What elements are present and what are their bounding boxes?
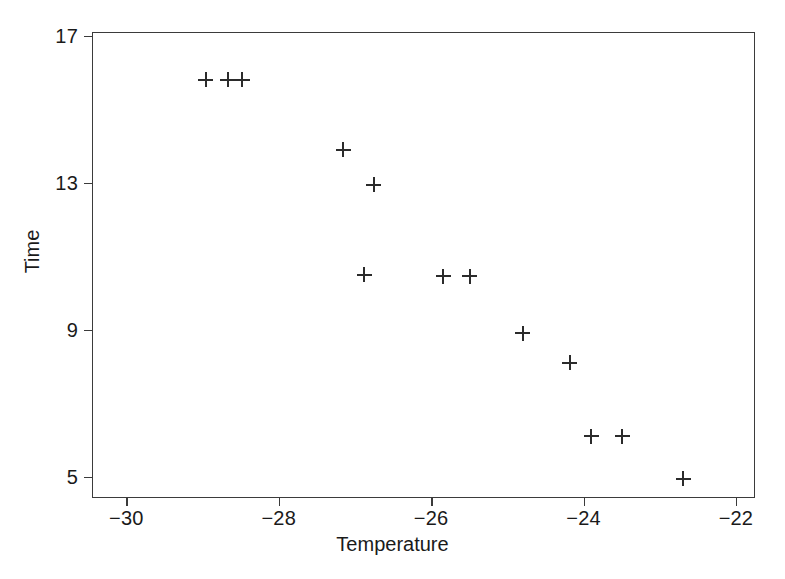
x-tick-label: −26 bbox=[414, 507, 449, 530]
x-tick-mark bbox=[736, 498, 738, 506]
plot-area-frame bbox=[92, 32, 755, 498]
y-tick-label: 13 bbox=[55, 171, 78, 194]
x-tick-label: −24 bbox=[566, 507, 601, 530]
data-point bbox=[366, 177, 381, 192]
data-point bbox=[562, 355, 577, 370]
x-tick-label: −28 bbox=[261, 507, 296, 530]
x-tick-label: −30 bbox=[109, 507, 144, 530]
x-axis-label: Temperature bbox=[0, 533, 785, 556]
x-tick-mark bbox=[431, 498, 433, 506]
data-point bbox=[515, 326, 530, 341]
y-tick-label: 9 bbox=[67, 318, 78, 341]
data-point bbox=[357, 267, 372, 282]
y-tick-mark bbox=[84, 183, 92, 185]
data-point bbox=[584, 429, 599, 444]
data-point bbox=[436, 269, 451, 284]
x-tick-mark bbox=[126, 498, 128, 506]
data-point bbox=[615, 429, 630, 444]
data-point bbox=[235, 72, 250, 87]
data-point bbox=[220, 72, 235, 87]
y-axis-label: Time bbox=[21, 182, 44, 322]
y-tick-mark bbox=[84, 477, 92, 479]
data-point bbox=[198, 72, 213, 87]
y-tick-mark bbox=[84, 36, 92, 38]
y-tick-label: 5 bbox=[67, 465, 78, 488]
x-tick-mark bbox=[279, 498, 281, 506]
x-tick-mark bbox=[584, 498, 586, 506]
data-point bbox=[336, 142, 351, 157]
data-point bbox=[676, 471, 691, 486]
scatter-plot-figure: −30−28−26−24−22 591317 Temperature Time bbox=[0, 0, 785, 579]
data-point bbox=[462, 269, 477, 284]
y-tick-label: 17 bbox=[55, 24, 78, 47]
x-tick-label: −22 bbox=[719, 507, 754, 530]
y-tick-mark bbox=[84, 330, 92, 332]
